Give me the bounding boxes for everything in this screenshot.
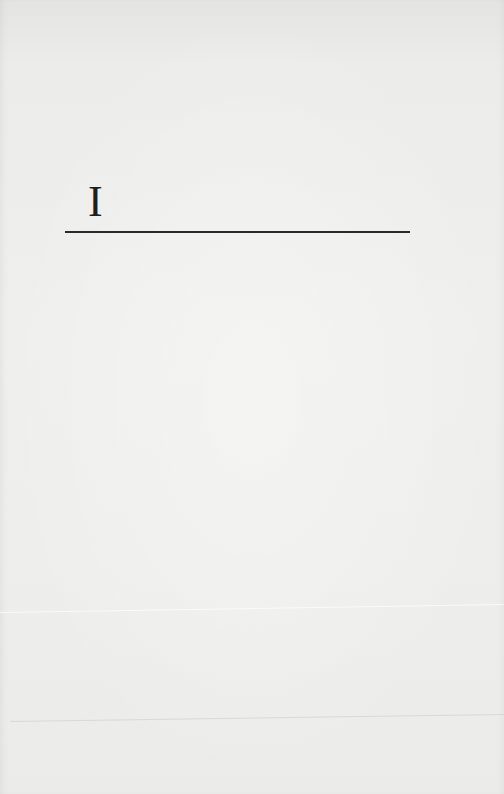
paper-crease — [0, 604, 504, 613]
chapter-numeral: I — [88, 180, 103, 224]
heading-rule — [65, 231, 410, 233]
book-page: I — [0, 0, 504, 794]
paper-crease — [10, 714, 504, 722]
